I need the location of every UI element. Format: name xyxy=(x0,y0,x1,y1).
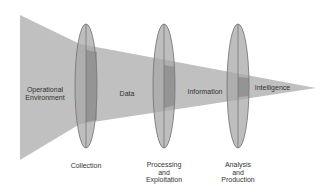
stage-label-information: Information xyxy=(180,88,230,96)
lens-processing-exploitation xyxy=(153,24,175,148)
lens-label-collection: Collection xyxy=(66,162,106,170)
intelligence-process-diagram: Operational Environment Data Information… xyxy=(0,0,329,194)
stage-label-intelligence: Intelligence xyxy=(250,84,295,92)
stage-label-operational-environment: Operational Environment xyxy=(20,86,70,101)
lens-label-analysis-production: Analysis and Production xyxy=(216,161,260,184)
lens-collection xyxy=(75,24,97,148)
stage-label-data: Data xyxy=(112,90,142,98)
lens-analysis-production xyxy=(227,24,249,148)
lens-label-processing-exploitation: Processing and Exploitation xyxy=(142,161,186,184)
